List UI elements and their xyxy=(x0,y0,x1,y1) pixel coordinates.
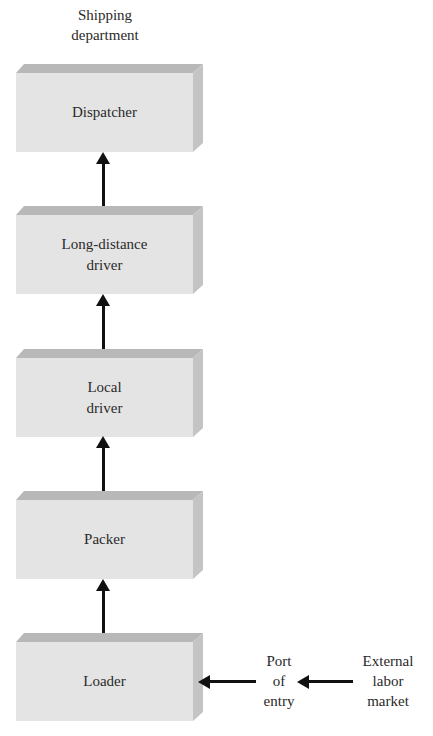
box-front-face: Loader xyxy=(16,642,193,721)
node-label: labor xyxy=(348,671,428,691)
box-side-face xyxy=(193,491,203,579)
arrow-shaft xyxy=(102,162,105,206)
arrow-shaft xyxy=(102,589,105,633)
arrow-left-icon xyxy=(297,675,309,689)
arrow-shaft xyxy=(102,304,105,349)
arrow-up-icon xyxy=(96,152,110,164)
node-loader: Loader xyxy=(16,633,203,721)
arrow-left-icon xyxy=(198,675,210,689)
node-label: Port xyxy=(254,651,304,671)
box-front-face: Packer xyxy=(16,500,193,579)
arrow-up-icon xyxy=(96,436,110,448)
arrow-shaft xyxy=(102,446,105,491)
title-line-1: Shipping xyxy=(40,5,170,25)
box-front-face: Dispatcher xyxy=(16,73,193,152)
node-long-distance-driver: Long-distance driver xyxy=(16,206,203,294)
node-local-driver: Local driver xyxy=(16,349,203,437)
node-external-labor-market: External labor market xyxy=(348,651,428,711)
box-top-face xyxy=(16,633,203,642)
node-label: entry xyxy=(254,691,304,711)
node-label: Local xyxy=(87,377,123,398)
shipping-department-title: Shipping department xyxy=(40,5,170,45)
node-label: Dispatcher xyxy=(72,102,137,123)
box-top-face xyxy=(16,491,203,500)
box-top-face xyxy=(16,64,203,73)
title-line-2: department xyxy=(40,25,170,45)
box-front-face: Local driver xyxy=(16,358,193,437)
node-label: Loader xyxy=(83,671,125,692)
box-front-face: Long-distance driver xyxy=(16,215,193,294)
arrow-up-icon xyxy=(96,294,110,306)
node-label: driver xyxy=(87,398,123,419)
box-side-face xyxy=(193,64,203,152)
arrow-shaft xyxy=(308,680,353,683)
node-packer: Packer xyxy=(16,491,203,579)
node-label: Packer xyxy=(84,529,125,550)
box-top-face xyxy=(16,206,203,215)
arrow-up-icon xyxy=(96,579,110,591)
node-label: driver xyxy=(62,255,148,276)
box-top-face xyxy=(16,349,203,358)
box-side-face xyxy=(193,206,203,294)
node-label: market xyxy=(348,691,428,711)
node-dispatcher: Dispatcher xyxy=(16,64,203,152)
node-label: External xyxy=(348,651,428,671)
box-side-face xyxy=(193,349,203,437)
arrow-shaft xyxy=(208,680,256,683)
node-label: Long-distance xyxy=(62,234,148,255)
